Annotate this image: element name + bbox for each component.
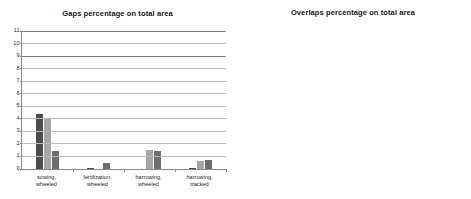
x-axis-tick-label-line: wheeled	[83, 181, 111, 189]
y-axis-tick-mark	[20, 93, 22, 94]
gridline	[22, 68, 226, 69]
gridline	[22, 156, 226, 157]
x-axis-tick-label: harrowing,wheeled	[135, 174, 161, 189]
x-axis-tick-mark	[175, 169, 176, 172]
bar	[189, 168, 197, 169]
bar	[36, 114, 44, 169]
x-axis-tick-label-line: tracked	[186, 181, 212, 189]
bar	[205, 160, 213, 169]
x-axis-tick-label-line: wheeled	[135, 181, 161, 189]
y-axis-tick-mark	[20, 68, 22, 69]
y-axis-tick-mark	[20, 143, 22, 144]
x-axis-tick-label-line: harrowing,	[135, 174, 161, 182]
y-axis-tick-mark	[20, 43, 22, 44]
gridline	[22, 43, 226, 44]
x-axis-tick-mark	[124, 169, 125, 172]
gridline	[22, 31, 226, 32]
y-axis-tick-mark	[20, 169, 22, 170]
x-axis-tick-label: harrowing,tracked	[186, 174, 212, 189]
x-axis-tick-label: sowing,wheeled	[36, 174, 57, 189]
y-axis-tick-mark	[20, 31, 22, 32]
x-axis-tick-mark	[226, 169, 227, 172]
y-axis-tick-mark	[20, 131, 22, 132]
y-axis-tick-mark	[20, 118, 22, 119]
bar	[146, 150, 154, 169]
bar	[197, 161, 205, 169]
gridline	[22, 81, 226, 82]
x-axis-tick-label: fertilization,wheeled	[83, 174, 111, 189]
x-axis-tick-label-line: sowing,	[36, 174, 57, 182]
gridline	[22, 131, 226, 132]
bar	[154, 151, 162, 169]
y-axis-tick-label: 11	[14, 28, 20, 34]
gridline	[22, 106, 226, 107]
bar	[103, 163, 111, 169]
y-axis-tick-mark	[20, 106, 22, 107]
bar	[52, 151, 60, 169]
gridline	[22, 118, 226, 119]
gridline	[22, 143, 226, 144]
plot-area-gaps: 01234567891011	[21, 31, 226, 170]
chart-title-overlaps: Overlaps percentage on total area	[235, 8, 471, 17]
y-axis-tick-mark	[20, 56, 22, 57]
x-axis-tick-label-line: harrowing,	[186, 174, 212, 182]
bars-layer-gaps	[22, 31, 226, 169]
chart-title-gaps: Gaps percentage on total area	[0, 9, 235, 18]
chart-panel-gaps: Gaps percentage on total area 0123456789…	[0, 0, 235, 199]
x-axis-tick-label-line: fertilization,	[83, 174, 111, 182]
chart-panel-overlaps: Overlaps percentage on total area 012345…	[235, 0, 471, 199]
x-axis-tick-label-line: wheeled	[36, 181, 57, 189]
y-axis-tick-mark	[20, 81, 22, 82]
gridline	[22, 56, 226, 57]
y-axis-tick-label: 10	[13, 41, 19, 47]
x-axis-tick-mark	[73, 169, 74, 172]
bar	[87, 168, 95, 169]
chart-figure: Gaps percentage on total area 0123456789…	[0, 0, 471, 199]
y-axis-tick-mark	[20, 156, 22, 157]
gridline	[22, 93, 226, 94]
